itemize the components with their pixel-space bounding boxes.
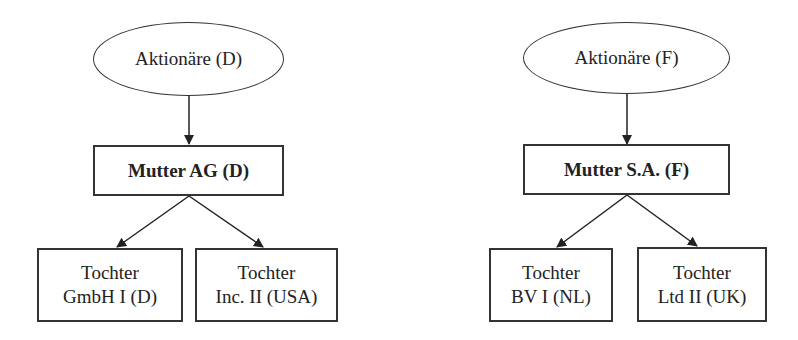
subsidiary-node-ltd: Tochter Ltd II (UK) <box>637 247 767 322</box>
subsidiary-label-line2: Ltd II (UK) <box>658 285 747 309</box>
subsidiary-label-line2: GmbH I (D) <box>63 285 157 309</box>
subsidiary-label-line1: Tochter <box>673 261 731 285</box>
parent-company-node-f: Mutter S.A. (F) <box>523 144 730 195</box>
arrow-parent-to-gmbh <box>117 196 189 247</box>
subsidiary-label-line1: Tochter <box>238 261 296 285</box>
parent-company-label: Mutter AG (D) <box>128 159 249 183</box>
shareholders-label: Aktionäre (F) <box>575 46 679 70</box>
shareholders-node-d: Aktionäre (D) <box>93 22 284 96</box>
arrow-parent-to-ltd <box>627 195 697 246</box>
parent-company-label: Mutter S.A. (F) <box>564 158 689 182</box>
arrow-parent-to-inc <box>189 196 263 247</box>
subsidiary-label-line2: BV I (NL) <box>511 285 591 309</box>
shareholders-label: Aktionäre (D) <box>135 47 242 71</box>
subsidiary-node-bv: Tochter BV I (NL) <box>489 248 613 322</box>
subsidiary-label-line2: Inc. II (USA) <box>216 285 318 309</box>
subsidiary-label-line1: Tochter <box>81 261 139 285</box>
shareholders-node-f: Aktionäre (F) <box>523 22 730 94</box>
arrow-parent-to-bv <box>557 195 627 247</box>
subsidiary-node-inc: Tochter Inc. II (USA) <box>195 248 338 322</box>
subsidiary-node-gmbh: Tochter GmbH I (D) <box>37 248 183 322</box>
parent-company-node-d: Mutter AG (D) <box>93 145 284 196</box>
subsidiary-label-line1: Tochter <box>522 261 580 285</box>
